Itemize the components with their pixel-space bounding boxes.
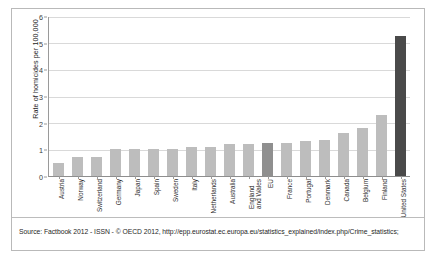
bar [72,157,84,176]
bar-slot [106,16,125,176]
x-tick-label: France [286,179,293,199]
bar-slot [353,16,372,176]
bar [338,133,350,176]
x-tick-label: Canada [343,179,350,201]
x-tick-label: Sweden [172,179,179,202]
x-tick-label: Finland [381,179,388,200]
x-label-slot: France [277,179,296,213]
y-tick-label: 6 [39,13,43,22]
x-tick-label: Denmark [324,179,331,205]
bar-slot [201,16,220,176]
bar [243,144,255,176]
bar-slot [182,16,201,176]
y-tick-label: 2 [39,119,43,128]
x-label-slot: Sweden [162,179,181,213]
y-tick-mark [44,177,47,178]
bar [110,149,122,176]
x-label-slot: Belgium [353,179,372,213]
x-tick-label: Italy [191,179,198,191]
x-label-slot: Switzerland [86,179,105,213]
bar-slot [391,16,410,176]
x-label-slot: Canada [334,179,353,213]
bar [300,141,312,176]
y-tick-mark [44,97,47,98]
bar [167,149,179,176]
x-label-slot: Australia [219,179,238,213]
x-tick-label: Norway [77,179,84,201]
bar-slot [372,16,391,176]
bar-slot [125,16,144,176]
bar [281,143,293,176]
bar-slot [163,16,182,176]
bar [376,115,388,176]
x-label-slot: United States [391,179,410,213]
bar [262,143,274,176]
x-tick-label: Belgium [362,179,369,202]
x-label-slot: Germany [105,179,124,213]
x-tick-label: Japan [134,179,141,196]
chart-figure: Rate of homicides per 100,000 0123456 Au… [11,8,425,251]
y-tick-label: 3 [39,93,43,102]
y-tick-label: 4 [39,66,43,75]
bar-slot [220,16,239,176]
bar [205,147,217,176]
bar-slot [258,16,277,176]
x-label-slot: Spain [143,179,162,213]
x-label-slot: Italy [181,179,200,213]
y-tick-label: 5 [39,39,43,48]
bar-slot [68,16,87,176]
bar [319,140,331,176]
x-tick-label: Austria [58,179,65,199]
y-tick-mark [44,150,47,151]
x-label-slot: Netherlands [200,179,219,213]
bar-slot [315,16,334,176]
bar [224,144,236,176]
x-label-slot: England and Wales [238,179,257,213]
bar [395,36,407,176]
x-tick-label: Spain [153,179,160,195]
bar-slot [144,16,163,176]
bar-slot [334,16,353,176]
bar [53,163,65,176]
x-tick-label: Netherlands [210,179,217,213]
x-tick-label: Australia [229,179,236,204]
bar-slot [87,16,106,176]
bar-slot [239,16,258,176]
x-tick-label: Germany [115,179,122,205]
source-divider [12,217,424,218]
y-axis-ticks: 0123456 [32,17,46,177]
x-tick-label: Portugal [305,179,312,203]
x-label-slot: Finland [372,179,391,213]
y-tick-mark [44,43,47,44]
bar [357,128,369,176]
x-label-slot: EU [258,179,277,213]
bar-series [49,16,410,176]
x-tick-label: Switzerland [96,179,103,212]
y-tick-mark [44,17,47,18]
x-label-slot: Portugal [296,179,315,213]
x-label-slot: Austria [48,179,67,213]
x-label-slot: Japan [124,179,143,213]
bar-slot [296,16,315,176]
y-tick-mark [44,123,47,124]
bar [186,147,198,176]
bar-slot [49,16,68,176]
y-tick-mark [44,70,47,71]
y-tick-label: 1 [39,146,43,155]
x-tick-label: EU [267,179,274,188]
bar [91,157,103,176]
x-label-slot: Denmark [315,179,334,213]
x-label-slot: Norway [67,179,86,213]
bar-slot [277,16,296,176]
chart-axes [48,17,410,177]
x-tick-label: United States [400,179,407,217]
source-note: Source: Factbook 2012 - ISSN - © OECD 20… [19,228,418,235]
bar [129,149,141,176]
x-axis-labels: AustriaNorwaySwitzerlandGermanyJapanSpai… [48,179,410,213]
bar [148,149,160,176]
y-tick-label: 0 [39,173,43,182]
plot-area: Rate of homicides per 100,000 0123456 Au… [12,9,424,214]
